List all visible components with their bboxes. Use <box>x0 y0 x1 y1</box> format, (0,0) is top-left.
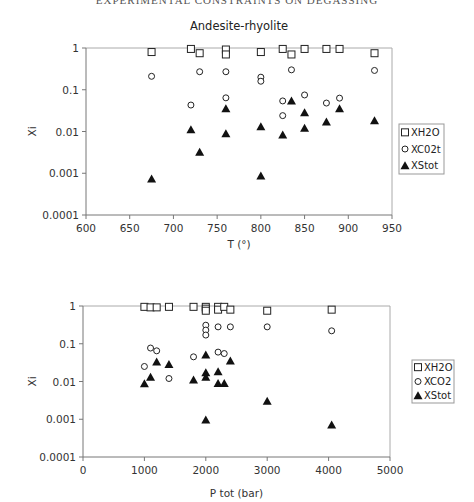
y-tick-label: 0.1 <box>59 338 76 350</box>
x-tick-label: 850 <box>295 222 315 234</box>
y-axis-title: Xi <box>26 376 38 386</box>
series-xh2o <box>148 45 378 58</box>
x-tick-label: 600 <box>76 222 96 234</box>
series-xh2o <box>141 303 335 314</box>
series-xco2 <box>141 322 334 381</box>
x-tick-label: 5000 <box>377 464 404 476</box>
y-tick-label: 0.001 <box>49 167 79 179</box>
y-tick-label: 0.1 <box>62 84 79 96</box>
x-tick-label: 800 <box>251 222 271 234</box>
figure: 10.10.010.0010.0001600650700750800850900… <box>0 0 474 502</box>
x-tick-label: 950 <box>382 222 402 234</box>
series-xstot <box>147 96 379 182</box>
y-axis-title: Xi <box>26 126 38 136</box>
y-tick-label: 0.01 <box>56 126 79 138</box>
x-tick-label: 2000 <box>192 464 219 476</box>
y-tick-label: 0.001 <box>46 413 76 425</box>
legend: XH2OXCO2XStot <box>412 360 454 403</box>
y-tick-label: 0.01 <box>53 376 76 388</box>
legend-label: XH2O <box>411 127 440 138</box>
chart-title: Andesite-rhyolite <box>190 19 288 33</box>
x-tick-label: 900 <box>338 222 358 234</box>
x-tick-label: 3000 <box>254 464 281 476</box>
legend-label: XStot <box>411 160 438 171</box>
series-xstot <box>140 351 336 429</box>
x-tick-label: 700 <box>163 222 183 234</box>
legend: XH2OXC02tXStot <box>399 124 444 174</box>
legend-label: XStot <box>424 390 451 401</box>
legend-label: XCO2 <box>424 376 451 387</box>
y-tick-label: 0.0001 <box>39 451 76 463</box>
x-tick-label: 1000 <box>131 464 158 476</box>
y-tick-label: 1 <box>69 300 76 312</box>
x-tick-label: 650 <box>120 222 140 234</box>
legend-label: XH2O <box>424 362 453 373</box>
chart-2: 10.10.010.0010.0001010002000300040005000… <box>26 300 454 499</box>
y-tick-label: 0.0001 <box>42 209 79 221</box>
x-tick-label: 4000 <box>315 464 342 476</box>
x-axis-title: P tot (bar) <box>210 487 263 499</box>
y-tick-label: 1 <box>72 42 79 54</box>
legend-label: XC02t <box>411 144 441 155</box>
x-tick-label: 750 <box>207 222 227 234</box>
x-tick-label: 0 <box>80 464 87 476</box>
chart-1: 10.10.010.0010.0001600650700750800850900… <box>26 19 444 250</box>
x-axis-title: T (°) <box>226 238 250 250</box>
